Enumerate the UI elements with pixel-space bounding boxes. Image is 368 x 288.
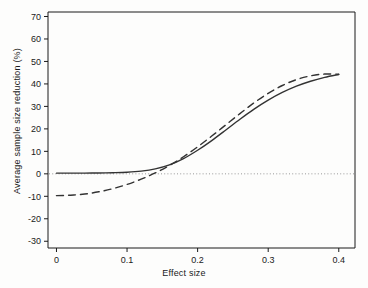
y-tick-label: 70	[31, 12, 41, 22]
y-tick-label: 50	[31, 57, 41, 67]
x-axis-title: Effect size	[0, 268, 368, 278]
tick-marks	[44, 16, 339, 252]
y-tick-label: 60	[31, 34, 41, 44]
x-tick-label: 0.1	[121, 255, 134, 265]
y-tick-label: -30	[28, 236, 41, 246]
chart-container: -30-20-1001020304050607000.10.20.30.4 Av…	[0, 0, 368, 288]
x-tick-label: 0.3	[262, 255, 275, 265]
axes	[48, 12, 355, 248]
x-tick-label: 0	[54, 255, 59, 265]
y-tick-label: 20	[31, 124, 41, 134]
data-series	[56, 74, 338, 196]
dashed-curve	[56, 74, 338, 196]
tick-labels: -30-20-1001020304050607000.10.20.30.4	[28, 12, 345, 265]
y-tick-label: -20	[28, 214, 41, 224]
chart-plot: -30-20-1001020304050607000.10.20.30.4	[0, 0, 368, 288]
y-tick-label: -10	[28, 192, 41, 202]
y-axis-title: Average sample size reduction (%)	[2, 0, 12, 30]
y-tick-label: 10	[31, 147, 41, 157]
y-tick-label: 40	[31, 79, 41, 89]
solid-curve	[56, 74, 338, 173]
x-tick-label: 0.4	[333, 255, 346, 265]
y-tick-label: 0	[36, 169, 41, 179]
y-tick-label: 30	[31, 102, 41, 112]
x-tick-label: 0.2	[191, 255, 204, 265]
